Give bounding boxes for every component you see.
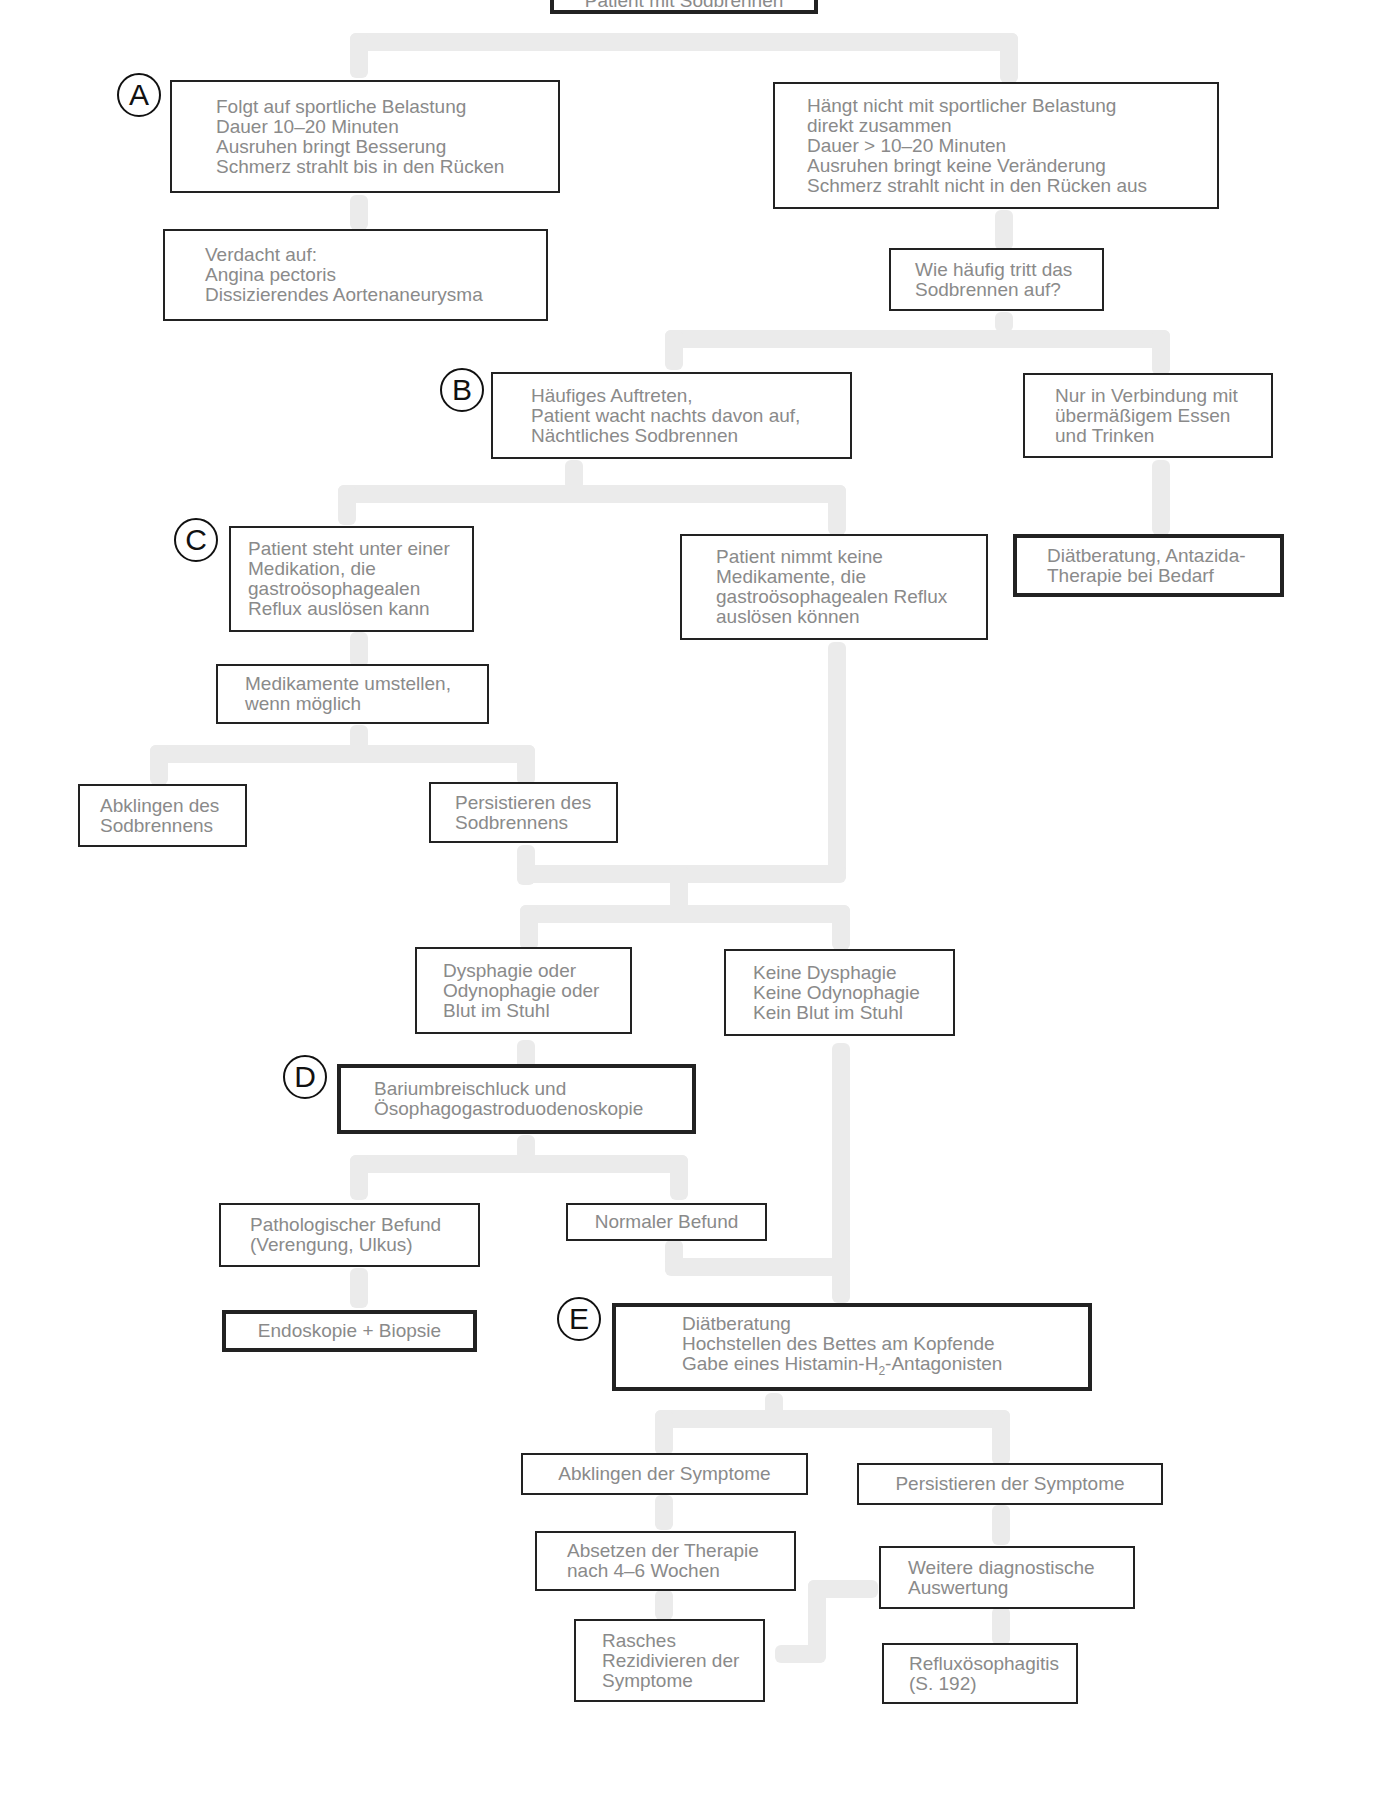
node-change-medication: Medikamente umstellen, wenn möglich [216,664,489,724]
connector [808,1580,878,1598]
connector [517,745,535,785]
connector [670,1155,688,1200]
connector [992,1410,1010,1465]
connector [655,1410,1010,1428]
connector [655,1495,673,1530]
node-e-treatment: Diätberatung Hochstellen des Bettes am K… [612,1303,1092,1391]
node-dysphagia: Dysphagie oder Odynophagie oder Blut im … [415,947,632,1034]
connector [828,485,846,535]
node-stop-therapy: Absetzen der Therapie nach 4–6 Wochen [535,1531,796,1591]
label-b: B [440,368,484,412]
node-rapid-relapse: Rasches Rezidivieren der Symptome [574,1619,765,1702]
node-heartburn-resolves: Abklingen des Sodbrennens [78,784,247,847]
node-d-barium-egd: Bariumbreischluck und Ösophagogastroduod… [337,1064,696,1134]
connector [350,1155,688,1173]
connector [338,485,356,525]
connector [150,745,168,785]
connector [655,1590,673,1620]
node-frequency-question: Wie häufig tritt das Sodbrennen auf? [889,248,1104,311]
connector [992,1607,1010,1645]
node-a-exercise-related: Folgt auf sportliche Belastung Dauer 10–… [170,80,560,193]
connector [338,485,846,503]
connector [1000,33,1018,83]
node-endoscopy-biopsy: Endoskopie + Biopsie [222,1310,477,1352]
connector [670,865,688,910]
connector [350,1268,368,1308]
connector [350,195,368,230]
label-d: D [283,1055,327,1099]
connector [828,642,846,882]
connector [350,632,368,667]
node-no-dysphagia: Keine Dysphagie Keine Odynophagie Kein B… [724,949,955,1036]
node-pathological-finding: Pathologischer Befund (Verengung, Ulkus) [219,1203,480,1267]
node-no-medication: Patient nimmt keine Medikamente, die gas… [680,534,988,640]
node-diet-antacid: Diätberatung, Antazida- Therapie bei Bed… [1013,534,1284,597]
node-heartburn-persists: Persistieren des Sodbrennens [429,782,618,843]
node-normal-finding: Normaler Befund [566,1203,767,1241]
connector [995,312,1013,332]
connector [832,905,850,950]
node-suspicion: Verdacht auf: Angina pectoris Dissiziere… [163,229,548,321]
connector [992,1505,1010,1545]
connector [1152,460,1170,535]
connector [665,1258,850,1276]
label-e: E [557,1297,601,1341]
connector [1152,330,1170,375]
connector [350,1155,368,1200]
connector [150,745,535,763]
node-reflux-esophagitis: Refluxösophagitis (S. 192) [882,1643,1078,1704]
connector [520,905,538,950]
connector [350,33,1018,51]
node-only-overeating: Nur in Verbindung mit übermäßigem Essen … [1023,373,1273,458]
node-symptoms-persist: Persistieren der Symptome [857,1463,1163,1505]
connector [655,1410,673,1455]
node-symptoms-resolve: Abklingen der Symptome [521,1453,808,1495]
connector [995,210,1013,250]
label-a: A [117,73,161,117]
node-b-frequent: Häufiges Auftreten, Patient wacht nachts… [491,372,852,459]
node-further-diagnostics: Weitere diagnostische Auswertung [879,1546,1135,1609]
connector [350,33,368,78]
node-not-exercise-related: Hängt nicht mit sportlicher Belastung di… [773,82,1219,209]
connector [665,330,1170,348]
connector [665,330,683,370]
node-c-medication: Patient steht unter einer Medikation, di… [229,526,474,632]
connector [520,905,850,923]
label-c: C [174,518,218,562]
node-start: Patient mit Sodbrennen [550,0,818,14]
